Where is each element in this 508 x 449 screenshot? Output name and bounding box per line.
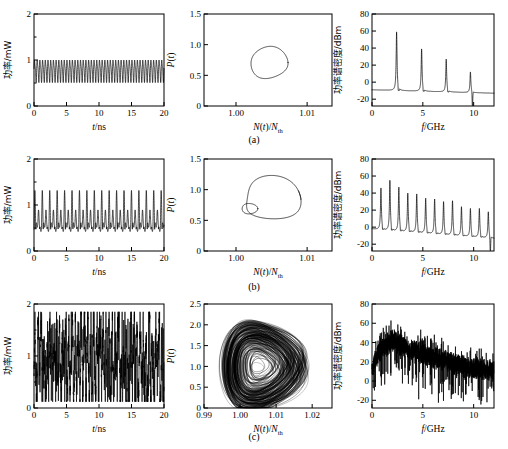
time-x-axis-label: t/ns — [92, 267, 106, 277]
svg-text:1.00: 1.00 — [228, 253, 244, 263]
time-y-axis-label: 功率/mW — [2, 337, 13, 376]
svg-text:0: 0 — [27, 101, 32, 111]
panel-a-time-series: 05101520012t/ns功率/mW — [0, 0, 170, 145]
svg-text:10: 10 — [95, 410, 105, 420]
svg-text:0: 0 — [32, 410, 37, 420]
plot-a-time-series: 05101520012t/ns功率/mW — [0, 0, 170, 145]
svg-text:10: 10 — [469, 108, 479, 118]
svg-text:0.5: 0.5 — [190, 216, 202, 226]
svg-text:40: 40 — [360, 43, 370, 53]
svg-text:0: 0 — [365, 77, 370, 87]
svg-text:1: 1 — [27, 200, 32, 210]
spectrum-y-axis-label: 功率谱密度/dBm — [332, 322, 343, 391]
svg-text:1.01: 1.01 — [299, 253, 315, 263]
figure-panel-grid: 05101520012t/ns功率/mW 1.001.0100.51.01.5N… — [0, 0, 508, 449]
svg-text:1.0: 1.0 — [190, 362, 202, 372]
caption-b: (b) — [0, 281, 508, 292]
phase-y-axis-label: P(t) — [166, 53, 177, 69]
time-y-axis-label: 功率/mW — [2, 41, 13, 80]
phase-y-axis-label: P(t) — [166, 349, 177, 365]
caption-a: (a) — [0, 134, 508, 145]
panel-a-phase-portrait: 1.001.0100.51.01.5N(t)/NthP(t) — [160, 0, 340, 145]
svg-text:1.00: 1.00 — [232, 410, 248, 420]
svg-text:1.01: 1.01 — [299, 108, 315, 118]
spectrum-x-axis-label: f/GHz — [421, 267, 444, 277]
panel-b-time-series: 05101520012t/ns功率/mW — [0, 145, 170, 290]
svg-text:10: 10 — [469, 410, 479, 420]
svg-text:0: 0 — [365, 222, 370, 232]
time-series-curve — [34, 190, 164, 231]
svg-text:-20: -20 — [357, 239, 369, 249]
time-x-axis-label: t/ns — [92, 122, 106, 132]
svg-text:0.5: 0.5 — [190, 71, 202, 81]
svg-text:5: 5 — [64, 253, 69, 263]
inner-orbit-loop — [242, 203, 258, 213]
spectrum-curve — [372, 321, 494, 405]
svg-text:20: 20 — [360, 60, 370, 70]
svg-text:1: 1 — [27, 55, 32, 65]
svg-text:1.5: 1.5 — [190, 154, 202, 164]
svg-text:0: 0 — [32, 253, 37, 263]
svg-text:0: 0 — [370, 108, 375, 118]
svg-text:60: 60 — [360, 318, 370, 328]
phase-y-axis-label: P(t) — [166, 198, 177, 214]
plot-a-phase-portrait: 1.001.0100.51.01.5N(t)/NthP(t) — [160, 0, 340, 145]
time-series-curve — [34, 60, 164, 83]
svg-text:1.5: 1.5 — [190, 341, 202, 351]
axis-ticks: 0510-20020406080 — [357, 154, 479, 263]
panel-c-spectrum: 0510-20020406080f/GHz功率谱密度/dBm — [330, 290, 508, 449]
chaotic-attractor — [219, 320, 309, 408]
plot-b-phase-portrait: 1.001.0100.51.01.5N(t)/NthP(t) — [160, 145, 340, 290]
phase-plot-frame — [204, 159, 332, 251]
svg-text:2: 2 — [27, 9, 32, 19]
panel-b-phase-portrait: 1.001.0100.51.01.5N(t)/NthP(t) — [160, 145, 340, 290]
axis-ticks: 05101520012 — [27, 154, 170, 263]
phase-x-axis-label: N(t)/Nth — [252, 267, 283, 279]
svg-text:5: 5 — [421, 253, 426, 263]
svg-text:5: 5 — [421, 108, 426, 118]
phase-x-axis-label: N(t)/Nth — [252, 122, 283, 134]
plot-c-time-series: 05101520012t/ns功率/mW — [0, 290, 170, 449]
panel-a-spectrum: 0510-20020406080f/GHz功率谱密度/dBm — [330, 0, 508, 145]
svg-text:10: 10 — [469, 253, 479, 263]
svg-text:15: 15 — [127, 253, 137, 263]
time-y-axis-label: 功率/mW — [2, 186, 13, 225]
svg-text:80: 80 — [360, 9, 370, 19]
figure-row-c: 05101520012t/ns功率/mW 0.991.001.011.0200.… — [0, 290, 508, 449]
plot-a-spectrum: 0510-20020406080f/GHz功率谱密度/dBm — [330, 0, 508, 145]
svg-text:1.02: 1.02 — [304, 410, 320, 420]
time-plot-frame — [34, 159, 164, 251]
svg-text:10: 10 — [95, 108, 105, 118]
svg-text:1.0: 1.0 — [190, 185, 202, 195]
svg-text:60: 60 — [360, 26, 370, 36]
axis-ticks: 1.001.0100.51.01.5 — [190, 9, 315, 118]
panel-c-time-series: 05101520012t/ns功率/mW — [0, 290, 170, 449]
svg-text:0.5: 0.5 — [190, 382, 202, 392]
svg-text:80: 80 — [360, 299, 370, 309]
svg-text:2.5: 2.5 — [190, 299, 202, 309]
svg-text:20: 20 — [360, 357, 370, 367]
svg-text:0: 0 — [27, 403, 32, 413]
panel-c-phase-portrait: 0.991.001.011.0200.51.01.52.02.5N(t)/Nth… — [160, 290, 340, 449]
spectrum-y-axis-label: 功率谱密度/dBm — [332, 171, 343, 240]
axis-ticks: 1.001.0100.51.01.5 — [190, 154, 315, 263]
svg-text:5: 5 — [64, 108, 69, 118]
svg-text:1: 1 — [27, 351, 32, 361]
svg-text:1.01: 1.01 — [268, 410, 284, 420]
figure-row-b: 05101520012t/ns功率/mW 1.001.0100.51.01.5N… — [0, 145, 508, 290]
svg-text:20: 20 — [360, 205, 370, 215]
panel-b-spectrum: 0510-20020406080f/GHz功率谱密度/dBm — [330, 145, 508, 290]
caption-c: (c) — [0, 431, 508, 442]
plot-b-time-series: 05101520012t/ns功率/mW — [0, 145, 170, 290]
svg-text:5: 5 — [421, 410, 426, 420]
svg-text:60: 60 — [360, 171, 370, 181]
svg-text:40: 40 — [360, 338, 370, 348]
limit-cycle-orbit — [251, 46, 288, 78]
svg-text:10: 10 — [95, 253, 105, 263]
spectrum-x-axis-label: f/GHz — [421, 122, 444, 132]
svg-text:0: 0 — [27, 246, 32, 256]
svg-text:5: 5 — [64, 410, 69, 420]
svg-text:80: 80 — [360, 154, 370, 164]
svg-text:-20: -20 — [357, 94, 369, 104]
svg-text:-20: -20 — [357, 395, 369, 405]
